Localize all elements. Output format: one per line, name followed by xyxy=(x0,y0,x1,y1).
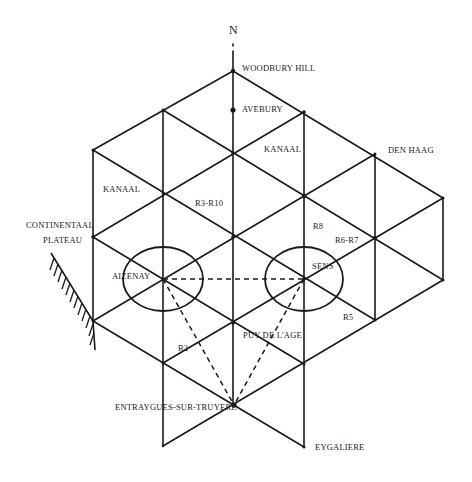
label-den-haag: DEN HAAG xyxy=(388,146,434,155)
label-continentaal: CONTINENTAAL xyxy=(26,221,94,230)
label-kanaal-right: KANAAL xyxy=(264,145,301,154)
label-eygaliere: EYGALIERE xyxy=(315,443,364,452)
triangular-grid-diagram: N WOODBURY HILL AVEBURY KANAAL DEN HAAG … xyxy=(0,0,472,482)
grid-nodes xyxy=(91,69,444,449)
woodbury-hill-node xyxy=(231,69,235,73)
eygaliere-node xyxy=(303,446,306,449)
label-plateau: PLATEAU xyxy=(43,236,82,245)
sens-node xyxy=(303,278,306,281)
avebury-node xyxy=(230,107,235,112)
label-r8: R8 xyxy=(313,222,323,231)
label-r5: R5 xyxy=(343,313,353,322)
label-r3-r10: R3-R10 xyxy=(195,199,223,208)
diagonals-up-right xyxy=(93,71,443,446)
puy-de-lage-node xyxy=(231,321,235,325)
label-kanaal-left: KANAAL xyxy=(103,185,140,194)
vertical-lines xyxy=(93,71,443,447)
label-woodbury-hill: WOODBURY HILL xyxy=(242,64,315,73)
label-r2: R2 xyxy=(178,344,188,353)
coastline-hatched xyxy=(50,253,95,350)
label-puy-de-lage: PUY DE L'AGE xyxy=(243,331,302,340)
diagonals-down-right xyxy=(93,71,443,447)
continentaal-plateau-node xyxy=(91,235,95,239)
label-avebury: AVEBURY xyxy=(242,105,283,114)
aizenay-node xyxy=(162,278,165,281)
label-sens: SENS xyxy=(312,262,334,271)
label-aizenay: AIZENAY xyxy=(112,272,150,281)
den-haag-node xyxy=(374,153,377,156)
label-entraygues: ENTRAYGUES-SUR-TRUYERE xyxy=(115,403,237,412)
label-r6-r7: R6-R7 xyxy=(335,236,359,245)
north-label: N xyxy=(229,24,238,36)
